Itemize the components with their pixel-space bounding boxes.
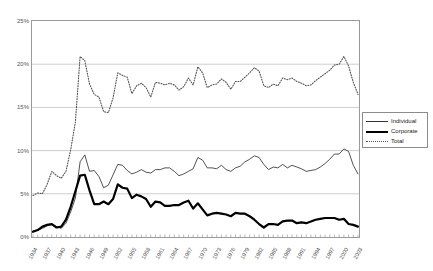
legend-line-corporate-icon [366, 127, 388, 135]
x-tick-label: 1943 [69, 246, 80, 260]
legend-item-corporate: Corporate [366, 126, 424, 136]
y-tick-label: 20% [1, 61, 29, 68]
x-tick-label: 1991 [296, 246, 307, 260]
x-tick-label: 1976 [225, 246, 236, 260]
legend-label-total: Total [391, 137, 404, 145]
legend-line-individual-icon [366, 117, 388, 125]
y-tick-label: 0% [1, 234, 29, 241]
x-tick-label: 1994 [310, 246, 321, 260]
y-tick-label: 10% [1, 147, 29, 154]
x-tick-label: 2003 [352, 246, 363, 260]
x-tick-label: 1961 [154, 246, 165, 260]
x-tick-label: 2000 [338, 246, 349, 260]
x-tick-label: 1937 [41, 246, 52, 260]
legend-label-corporate: Corporate [391, 127, 418, 135]
x-tick-label: 1955 [126, 246, 137, 260]
x-tick-label: 1973 [211, 246, 222, 260]
x-axis: 1934193719401943194619491952195519581961… [31, 239, 371, 271]
y-axis: 0%5%10%15%20%25% [0, 0, 29, 271]
y-tick-label: 15% [1, 104, 29, 111]
x-tick-label: 1982 [253, 246, 264, 260]
x-tick-label: 1958 [140, 246, 151, 260]
x-tick-label: 1997 [324, 246, 335, 260]
plot-lines [32, 21, 359, 237]
plot-area [31, 20, 360, 238]
y-tick-label: 5% [1, 190, 29, 197]
legend-label-individual: Individual [391, 117, 416, 125]
x-tick-label: 1964 [168, 246, 179, 260]
legend-item-individual: Individual [366, 116, 424, 126]
x-tick-label: 1949 [98, 246, 109, 260]
x-tick-label: 1970 [197, 246, 208, 260]
x-tick-label: 1979 [239, 246, 250, 260]
legend: Individual Corporate Total [362, 112, 428, 148]
y-tick-label: 25% [1, 18, 29, 25]
x-tick-label: 1985 [267, 246, 278, 260]
x-tick-label: 1988 [281, 246, 292, 260]
series-individual [33, 149, 358, 231]
x-tick-label: 1967 [183, 246, 194, 260]
chart-container: 0%5%10%15%20%25% 19341937194019431946194… [0, 0, 433, 271]
legend-item-total: Total [366, 136, 424, 146]
x-tick-label: 1940 [55, 246, 66, 260]
series-corporate [33, 175, 358, 232]
x-tick-label: 1952 [112, 246, 123, 260]
x-tick-label: 1946 [84, 246, 95, 260]
legend-line-total-icon [366, 137, 388, 145]
